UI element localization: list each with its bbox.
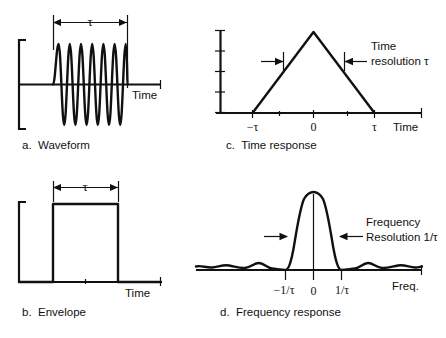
panel-a-caption: a. Waveform bbox=[22, 139, 90, 151]
panel-c-arrow-right-head bbox=[345, 58, 354, 65]
panel-b-tau-arrow-left bbox=[53, 184, 61, 191]
panel-frequency-response: Frequency Resolution 1/τ −1/τ 0 1/τ Freq… bbox=[196, 176, 446, 301]
panel-c-triangle-trace bbox=[253, 32, 375, 113]
panel-b-caption: b. Envelope bbox=[22, 306, 86, 318]
panel-c-caption: c. Time response bbox=[226, 139, 317, 151]
panel-c-ticklabel-neg-tau: −τ bbox=[247, 120, 259, 134]
panel-d-arrow-right-head bbox=[339, 233, 348, 240]
panel-time-response: Time resolution τ −τ 0 τ Time bbox=[206, 0, 446, 140]
panel-d-ticklabel-zero: 0 bbox=[311, 284, 317, 298]
panel-c-annotation-line2: resolution τ bbox=[371, 55, 429, 67]
panel-c-x-axis-label: Time bbox=[393, 121, 418, 133]
panel-d-arrow-left-head bbox=[280, 233, 289, 240]
panel-b-y-axis bbox=[19, 202, 26, 282]
panel-a-tau-arrow-left bbox=[53, 19, 61, 26]
panel-waveform: τ Time bbox=[0, 0, 210, 140]
panel-c-ticklabel-pos-tau: τ bbox=[372, 120, 377, 134]
panel-d-ticklabel-neg: −1/τ bbox=[274, 283, 295, 297]
panel-b-tau-arrow-right bbox=[110, 184, 118, 191]
panel-a-tau-label: τ bbox=[87, 14, 92, 29]
panel-c-arrow-left-head bbox=[275, 58, 284, 65]
panel-d-ticklabel-pos: 1/τ bbox=[335, 283, 349, 297]
panel-d-caption: d. Frequency response bbox=[220, 306, 341, 318]
panel-a-x-axis-label: Time bbox=[132, 89, 157, 101]
panel-d-annotation-line2: Resolution 1/τ bbox=[366, 231, 438, 243]
panel-a-tau-arrow-right bbox=[119, 19, 127, 26]
panel-d-annotation-line1: Frequency bbox=[366, 216, 421, 228]
panel-b-tau-label: τ bbox=[82, 179, 87, 194]
figure-root: τ Time a. Waveform bbox=[0, 0, 446, 338]
panel-c-annotation-line1: Time bbox=[371, 40, 396, 52]
panel-d-x-axis-label: Freq. bbox=[392, 280, 419, 292]
panel-b-x-axis-label: Time bbox=[125, 287, 150, 299]
panel-c-ticklabel-zero: 0 bbox=[311, 120, 317, 134]
panel-envelope: τ Time bbox=[0, 176, 210, 301]
panel-b-envelope-trace bbox=[19, 204, 161, 282]
